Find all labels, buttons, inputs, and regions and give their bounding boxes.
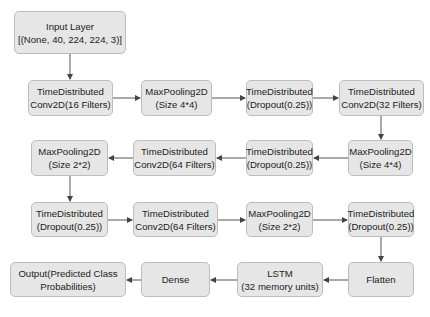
node-drop1: TimeDistributed(Dropout(0.25)) [246, 80, 313, 116]
node-label: MaxPooling2D [349, 145, 411, 158]
node-conv64a: TimeDistributedConv2D(64 Filters) [133, 140, 216, 176]
node-pool44a: MaxPooling2D(Size 4*4) [141, 80, 212, 116]
node-label: Probabilities) [40, 280, 95, 293]
node-flatten: Flatten [348, 262, 414, 297]
node-label: [(None, 40, 224, 224, 3)] [18, 33, 122, 46]
node-drop3: TimeDistributed(Dropout(0.25)) [31, 202, 108, 237]
node-label: Flatten [366, 273, 395, 286]
node-input: Input Layer[(None, 40, 224, 224, 3)] [14, 11, 126, 54]
node-conv64b: TimeDistributedConv2D(64 Filters) [133, 202, 218, 237]
node-label: MaxPooling2D [38, 145, 100, 158]
node-label: TimeDistributed [246, 145, 313, 158]
node-pool22a: MaxPooling2D(Size 2*2) [31, 140, 108, 176]
node-label: TimeDistributed [348, 207, 415, 220]
node-label: TimeDistributed [141, 145, 208, 158]
node-drop2: TimeDistributed(Dropout(0.25)) [246, 140, 313, 176]
node-label: Conv2D(64 Filters) [135, 220, 216, 233]
node-label: TimeDistributed [142, 207, 209, 220]
node-label: (32 memory units) [241, 280, 318, 293]
node-label: MaxPooling2D [145, 85, 207, 98]
node-label: MaxPooling2D [248, 207, 310, 220]
node-label: Conv2D(16 Filters) [30, 98, 111, 111]
node-label: Conv2D(32 Filters) [341, 98, 422, 111]
node-label: Output(Predicted Class [18, 267, 117, 280]
node-label: (Size 2*2) [258, 220, 300, 233]
node-pool22b: MaxPooling2D(Size 2*2) [246, 202, 313, 237]
node-lstm: LSTM(32 memory units) [237, 262, 323, 297]
node-drop4: TimeDistributed(Dropout(0.25)) [348, 202, 414, 237]
node-dense: Dense [141, 262, 210, 297]
node-label: LSTM [267, 267, 293, 280]
node-label: (Dropout(0.25)) [247, 158, 313, 171]
node-label: Input Layer [46, 20, 94, 33]
node-label: TimeDistributed [246, 85, 313, 98]
node-conv32: TimeDistributedConv2D(32 Filters) [339, 80, 424, 116]
node-output: Output(Predicted ClassProbabilities) [10, 262, 126, 297]
node-label: (Dropout(0.25)) [348, 220, 414, 233]
node-label: Dense [162, 273, 190, 286]
node-label: (Size 4*4) [359, 158, 401, 171]
node-label: TimeDistributed [36, 207, 103, 220]
node-label: TimeDistributed [348, 85, 415, 98]
node-label: TimeDistributed [37, 85, 104, 98]
node-label: (Size 4*4) [155, 98, 197, 111]
node-label: Conv2D(64 Filters) [134, 158, 215, 171]
node-label: (Size 2*2) [48, 158, 90, 171]
node-label: (Dropout(0.25)) [247, 98, 313, 111]
node-pool44b: MaxPooling2D(Size 4*4) [348, 140, 413, 176]
node-label: (Dropout(0.25)) [37, 220, 103, 233]
node-conv16: TimeDistributedConv2D(16 Filters) [28, 80, 113, 116]
